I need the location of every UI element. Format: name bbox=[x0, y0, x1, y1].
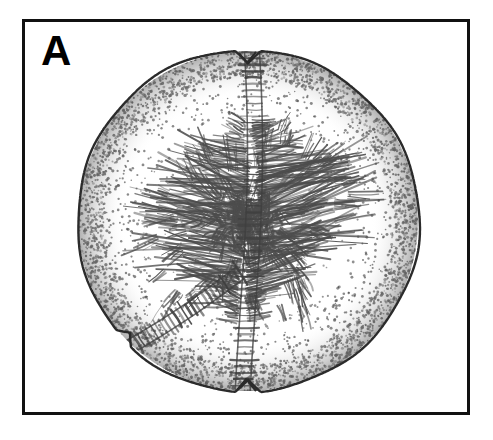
specimen-illustration bbox=[25, 22, 470, 415]
figure-panel: A bbox=[22, 19, 470, 415]
panel-label-a: A bbox=[41, 30, 71, 72]
